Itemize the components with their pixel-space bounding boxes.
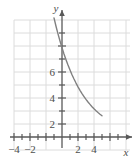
y-tick-label-2: 2 <box>50 118 56 130</box>
y-axis-arrow <box>59 10 65 16</box>
y-tick-labels: 2 4 6 <box>50 66 56 130</box>
grid-lines <box>14 20 130 150</box>
x-tick-labels: −4 −2 2 4 <box>8 143 97 155</box>
y-tick-label-6: 6 <box>50 66 56 78</box>
x-tick-label-4: 4 <box>91 143 97 155</box>
y-tick-label-4: 4 <box>50 92 56 104</box>
exponential-decay-graph: −4 −2 2 4 2 4 6 x y <box>0 0 140 163</box>
x-tick-label-neg4: −4 <box>8 143 20 155</box>
x-axis-label: x <box>123 146 129 158</box>
x-tick-label-neg2: −2 <box>24 143 36 155</box>
y-axis-label: y <box>53 2 59 14</box>
y-axis <box>59 10 65 148</box>
x-tick-label-2: 2 <box>75 143 81 155</box>
x-axis <box>10 134 132 140</box>
x-axis-arrow <box>126 134 132 140</box>
